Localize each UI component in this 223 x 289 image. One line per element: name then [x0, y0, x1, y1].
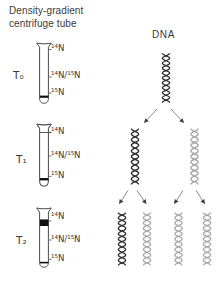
dna-helix-t2-2 — [143, 212, 150, 265]
tube-outline-t1 — [37, 124, 52, 186]
centrifuge-tube-t2 — [37, 208, 52, 267]
diagram-title-line2: centrifuge tube — [9, 18, 77, 30]
gradient-label-t1-15n: ¹⁵N — [51, 171, 64, 181]
dna-helix-t2-4 — [203, 212, 210, 265]
gradient-label-t0-mid: ¹⁴N/¹⁵N — [51, 71, 81, 81]
dna-column-heading: DNA — [152, 29, 175, 41]
diagram-svg — [0, 0, 223, 289]
arrow-t1-right-2 — [196, 191, 205, 204]
arrow-t0-right — [171, 109, 184, 123]
dna-helix-t1-right — [191, 129, 198, 185]
gradient-label-t2-14n: ¹⁴N — [51, 212, 64, 222]
dna-helix-t2-1 — [118, 212, 125, 265]
dna-band-t2-15n — [40, 262, 48, 264]
timepoint-label-t2: T₂ — [16, 234, 27, 246]
arrow-t1-left-2 — [137, 191, 146, 204]
dna-band-t1-14n — [40, 132, 52, 133]
dna-helix-t1-left — [131, 129, 138, 185]
dna-band-t0-15n — [40, 96, 48, 98]
diagram-canvas: Density-gradient centrifuge tube DNA T₀ … — [0, 0, 223, 289]
gradient-label-t0-14n: ¹⁴N — [51, 44, 64, 54]
dna-band-t2-14n — [40, 219, 48, 226]
timepoint-label-t0: T₀ — [13, 69, 24, 81]
replication-arrows-t0-t1 — [145, 109, 184, 123]
timepoint-label-t1: T₁ — [16, 153, 27, 165]
dna-helix-t0 — [162, 53, 169, 102]
replication-arrows-t1-t2 — [120, 191, 205, 204]
arrow-t0-left — [145, 109, 158, 123]
diagram-title-line1: Density-gradient — [9, 5, 83, 17]
tube-outline-t0 — [37, 43, 52, 103]
gradient-label-t2-15n: ¹⁵N — [51, 254, 64, 264]
gradient-label-t2-mid: ¹⁴N/¹⁵N — [51, 235, 81, 245]
centrifuge-tube-t0 — [37, 43, 52, 103]
arrow-t1-right-1 — [175, 191, 184, 204]
gradient-label-t0-15n: ¹⁵N — [51, 88, 64, 98]
gradient-label-t1-14n: ¹⁴N — [51, 127, 64, 137]
tube-outline-t2 — [37, 208, 52, 267]
centrifuge-tube-t1 — [37, 124, 52, 186]
dna-band-t1-15n — [40, 178, 48, 180]
arrow-t1-left-1 — [120, 191, 129, 204]
dna-helix-t2-3 — [175, 212, 182, 265]
gradient-label-t1-mid: ¹⁴N/¹⁵N — [51, 151, 81, 161]
